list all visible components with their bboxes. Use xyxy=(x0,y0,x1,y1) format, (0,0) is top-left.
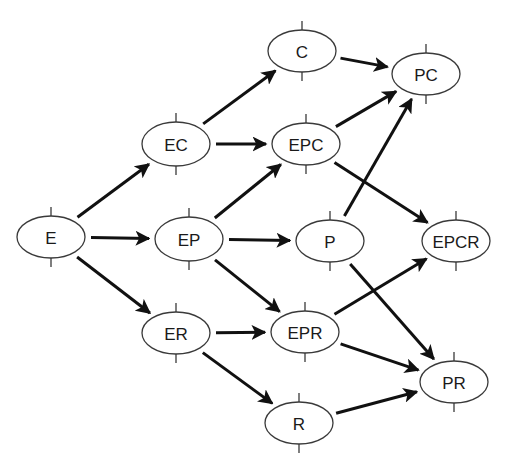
node-epr: EPR xyxy=(271,302,339,362)
edge-arrow-epc-to-pc xyxy=(336,91,396,126)
node-label: E xyxy=(45,229,56,248)
edge-arrow-epr-to-epcr xyxy=(335,259,427,314)
edge-arrow-e-to-er xyxy=(77,257,150,313)
node-label: EPC xyxy=(289,136,324,155)
edges-layer xyxy=(77,58,434,413)
node-epc: EPC xyxy=(272,114,340,174)
edge-arrow-ep-to-epc xyxy=(215,165,281,219)
edge-arrow-c-to-pc xyxy=(341,58,388,67)
node-ep: EP xyxy=(155,208,223,270)
node-label: EP xyxy=(178,231,201,250)
edge-arrow-e-to-ep xyxy=(91,238,149,239)
node-p: P xyxy=(296,211,364,271)
node-label: P xyxy=(324,233,335,252)
node-pr: PR xyxy=(420,352,488,412)
edge-arrow-ep-to-epr xyxy=(215,260,280,312)
node-e: E xyxy=(17,207,85,267)
node-ec: EC xyxy=(142,113,210,175)
edge-arrow-epr-to-pr xyxy=(341,344,419,370)
edge-arrow-ep-to-p xyxy=(229,240,290,241)
edge-arrow-e-to-ec xyxy=(78,164,149,217)
edge-arrow-ec-to-c xyxy=(203,71,275,124)
node-label: EPCR xyxy=(432,233,479,252)
node-label: C xyxy=(296,43,308,62)
node-label: PR xyxy=(442,374,466,393)
node-label: PC xyxy=(414,66,438,85)
node-label: EPR xyxy=(288,324,323,343)
node-label: EC xyxy=(164,136,188,155)
edge-arrow-r-to-pr xyxy=(336,392,417,413)
node-epcr: EPCR xyxy=(422,211,490,271)
node-pc: PC xyxy=(392,44,460,104)
node-r: R xyxy=(265,393,333,453)
edge-arrow-er-to-r xyxy=(203,353,272,404)
node-label: R xyxy=(293,415,305,434)
edge-arrow-epc-to-epcr xyxy=(335,162,428,222)
node-label: ER xyxy=(164,325,188,344)
state-transition-diagram: EECEPERCEPCPEPRRPCEPCRPR xyxy=(0,0,505,475)
node-er: ER xyxy=(142,303,210,363)
node-c: C xyxy=(268,21,336,81)
